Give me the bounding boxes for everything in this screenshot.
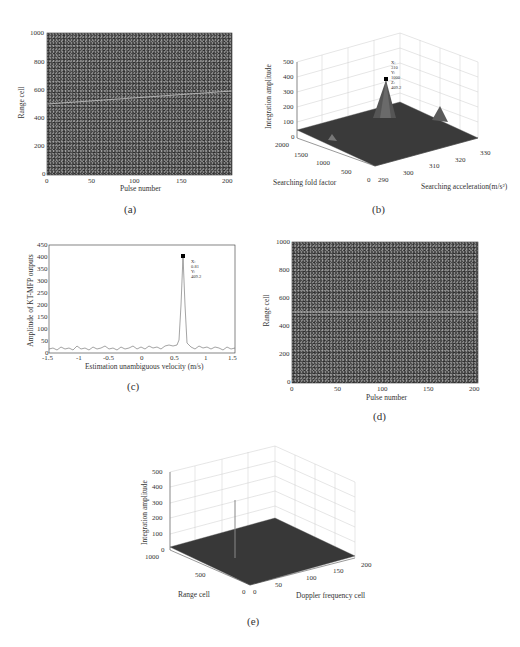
chart-b-caption: (b) bbox=[372, 203, 385, 215]
chart-b-xtick: 290 bbox=[378, 176, 389, 184]
chart-b-ytick: 500 bbox=[341, 168, 352, 176]
chart-e-xtick: 200 bbox=[361, 561, 372, 569]
chart-b-ytick: 0 bbox=[367, 176, 371, 184]
chart-c-ytick: 100 bbox=[37, 325, 48, 333]
chart-a-caption: (a) bbox=[124, 203, 136, 215]
chart-e-xtick: 0 bbox=[253, 588, 257, 596]
chart-c-datatip: X: 0.81 Y: 409.2 bbox=[191, 259, 201, 279]
chart-b-ylabel: Searching fold factor bbox=[273, 178, 336, 187]
chart-c-xtick: 1.5 bbox=[228, 354, 237, 362]
chart-b-ztick: 100 bbox=[283, 118, 294, 126]
chart-b-ytick: 2000 bbox=[275, 141, 289, 149]
chart-b-ztick: 0 bbox=[291, 133, 295, 141]
chart-a-xlabel: Pulse number bbox=[120, 184, 161, 193]
chart-c-ytick: 450 bbox=[37, 241, 48, 249]
chart-c-xtick: 0 bbox=[140, 354, 144, 362]
chart-a-ytick: 1000 bbox=[30, 29, 44, 37]
chart-a-xtick: 0 bbox=[45, 177, 49, 185]
chart-c-plot bbox=[49, 245, 235, 353]
chart-c-ylabel: Amplitude of KT-MFP outputs bbox=[26, 254, 35, 347]
chart-a-trajectory bbox=[47, 33, 232, 175]
chart-c-ytick: 150 bbox=[37, 313, 48, 321]
chart-d-ylabel: Range cell bbox=[262, 295, 271, 327]
chart-d-ytick: 400 bbox=[279, 322, 290, 330]
chart-d-xtick: 200 bbox=[469, 385, 480, 393]
chart-d-ytick: 1000 bbox=[276, 238, 290, 246]
chart-b-xlabel: Searching acceleration(m/s²) bbox=[421, 182, 507, 191]
chart-e-ylabel: Range cell bbox=[178, 590, 210, 599]
chart-e-ytick: 1000 bbox=[145, 553, 159, 561]
chart-e-ztick: 500 bbox=[152, 468, 163, 476]
chart-a-ytick: 800 bbox=[34, 58, 45, 66]
chart-e-ztick: 100 bbox=[152, 530, 163, 538]
chart-e-xtick: 50 bbox=[275, 581, 282, 589]
chart-b-xtick: 320 bbox=[455, 156, 466, 164]
chart-a-ytick: 600 bbox=[34, 86, 45, 94]
chart-b-xtick: 310 bbox=[429, 162, 440, 170]
chart-a-xtick: 50 bbox=[88, 177, 95, 185]
chart-e-xtick: 150 bbox=[333, 567, 344, 575]
chart-d-ytick: 200 bbox=[279, 350, 290, 358]
chart-d-xtick: 0 bbox=[290, 385, 294, 393]
chart-e-caption: (e) bbox=[247, 615, 259, 627]
chart-d-trajectory bbox=[292, 242, 478, 383]
chart-b-ytick: 1500 bbox=[294, 151, 308, 159]
chart-d-xlabel: Pulse number bbox=[366, 393, 407, 402]
chart-c-ytick: 200 bbox=[37, 301, 48, 309]
chart-c-caption: (c) bbox=[127, 380, 139, 392]
chart-d-xtick: 100 bbox=[377, 385, 388, 393]
chart-e-ztick: 200 bbox=[152, 514, 163, 522]
chart-b-ztick: 300 bbox=[283, 88, 294, 96]
chart-c-xtick: -1.5 bbox=[42, 354, 53, 362]
chart-b-ztick: 400 bbox=[283, 73, 294, 81]
chart-a-xtick: 200 bbox=[222, 177, 233, 185]
chart-c-ytick: 350 bbox=[37, 265, 48, 273]
chart-e-ztick: 300 bbox=[152, 499, 163, 507]
chart-e-ytick: 0 bbox=[242, 588, 246, 596]
chart-e-zlabel: Integration amplitude bbox=[140, 480, 149, 545]
chart-d-ytick: 600 bbox=[279, 294, 290, 302]
chart-c-ytick: 250 bbox=[37, 289, 48, 297]
chart-a-xtick: 150 bbox=[176, 177, 187, 185]
chart-b-xtick: 300 bbox=[403, 169, 414, 177]
chart-b-datatip: X: 310 Y: 1000 Z: 409.2 bbox=[391, 60, 401, 90]
chart-c-ytick: 50 bbox=[41, 337, 48, 345]
chart-c-xtick: 1 bbox=[204, 354, 208, 362]
chart-e-xlabel: Doppler frequency cell bbox=[296, 591, 365, 600]
chart-e-ztick: 400 bbox=[152, 483, 163, 491]
chart-c-xtick: -0.5 bbox=[103, 354, 114, 362]
chart-e-surface bbox=[140, 420, 380, 620]
chart-c-xlabel: Estimation unambiguous velocity (m/s) bbox=[85, 362, 204, 371]
chart-c-xtick: -1 bbox=[76, 354, 82, 362]
chart-b-surface bbox=[260, 0, 520, 200]
chart-e-ytick: 500 bbox=[195, 571, 206, 579]
chart-d-ytick: 800 bbox=[279, 266, 290, 274]
chart-c-ytick: 300 bbox=[37, 277, 48, 285]
chart-d-xtick: 150 bbox=[423, 385, 434, 393]
chart-a-ylabel: Range cell bbox=[17, 87, 26, 119]
chart-b-ztick: 500 bbox=[283, 58, 294, 66]
chart-b-xtick: 330 bbox=[480, 149, 491, 157]
chart-e-xtick: 100 bbox=[306, 574, 317, 582]
chart-a-ytick: 400 bbox=[34, 114, 45, 122]
chart-b-ztick: 200 bbox=[283, 103, 294, 111]
chart-c-ytick: 400 bbox=[37, 253, 48, 261]
chart-c-xtick: 0.5 bbox=[170, 354, 179, 362]
chart-b-ytick: 1000 bbox=[316, 159, 330, 167]
chart-b-zlabel: Integration amplitude bbox=[264, 64, 273, 129]
chart-a-ytick: 200 bbox=[34, 142, 45, 150]
chart-d-xtick: 50 bbox=[334, 385, 341, 393]
chart-e-ztick: 0 bbox=[161, 546, 165, 554]
